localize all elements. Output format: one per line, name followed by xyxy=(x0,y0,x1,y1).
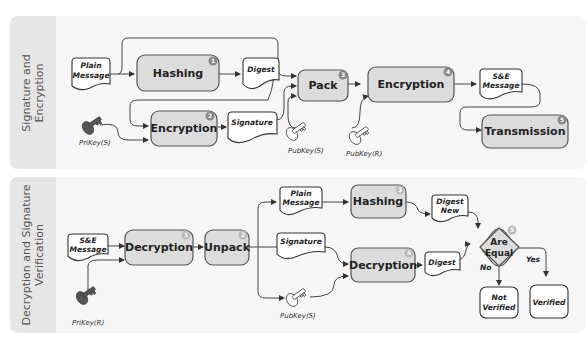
svg-text:Are: Are xyxy=(490,237,508,247)
svg-text:4: 4 xyxy=(407,249,411,256)
svg-text:Signature: Signature xyxy=(231,118,272,127)
svg-text:Decryption: Decryption xyxy=(349,259,417,272)
svg-text:Message: Message xyxy=(283,198,320,207)
svg-text:Encryption: Encryption xyxy=(151,122,218,135)
process-hashing: Hashing 1 xyxy=(137,55,219,91)
key-label: PubKey(S) xyxy=(288,147,324,155)
doc-digest: Digest xyxy=(243,58,279,89)
key-label: PubKey(S) xyxy=(280,312,316,320)
result-not-verified: Not Verified xyxy=(480,287,518,318)
svg-text:Equal: Equal xyxy=(485,248,513,258)
key-label: PriKey(R) xyxy=(72,319,104,327)
svg-text:3: 3 xyxy=(398,186,402,193)
svg-text:Encryption: Encryption xyxy=(378,78,445,91)
svg-text:5: 5 xyxy=(560,116,564,123)
svg-text:2: 2 xyxy=(208,112,212,119)
svg-text:No: No xyxy=(480,263,491,272)
svg-text:Verified: Verified xyxy=(483,303,517,312)
key-label: PriKey(S) xyxy=(79,139,111,147)
flow-diagram: Hashing 1 Encryption 2 Pack 3 Encryption… xyxy=(0,0,587,337)
doc-se-message-received: S&E Message xyxy=(68,234,108,261)
svg-text:2: 2 xyxy=(241,231,245,238)
process-transmission: Transmission 5 xyxy=(482,115,568,148)
svg-text:Message: Message xyxy=(73,71,110,80)
svg-text:Transmission: Transmission xyxy=(484,125,565,138)
process-unpack: Unpack 2 xyxy=(204,230,251,265)
svg-text:Plain: Plain xyxy=(290,189,311,198)
svg-text:Digest: Digest xyxy=(428,258,456,267)
svg-text:3: 3 xyxy=(341,71,345,78)
doc-digest-decrypted: Digest xyxy=(425,252,460,276)
process-decryption-signature: Decryption 4 xyxy=(349,248,417,282)
process-hashing-verify: Hashing 3 xyxy=(351,185,406,218)
doc-digest-new: Digest New xyxy=(432,195,468,222)
process-encryption-pack: Encryption 4 xyxy=(368,67,454,102)
process-encryption-signature: Encryption 2 xyxy=(151,111,218,146)
svg-text:Hashing: Hashing xyxy=(153,67,203,80)
svg-text:Message: Message xyxy=(70,245,107,254)
svg-text:4: 4 xyxy=(446,68,450,75)
process-decryption-message: Decryption 1 xyxy=(125,230,193,265)
key-icon-private-receiver xyxy=(74,283,99,307)
key-icon-public-sender-verify xyxy=(284,285,309,309)
svg-text:Pack: Pack xyxy=(308,79,338,92)
svg-text:Verified: Verified xyxy=(533,298,567,307)
svg-text:S&E: S&E xyxy=(492,72,510,81)
decision-are-equal: Are Equal 5 Yes No xyxy=(480,226,541,273)
svg-text:Digest: Digest xyxy=(436,197,464,206)
key-icon-public-sender xyxy=(284,119,309,143)
svg-text:Digest: Digest xyxy=(247,65,275,74)
svg-text:Yes: Yes xyxy=(526,255,541,264)
process-pack: Pack 3 xyxy=(298,70,348,101)
svg-text:1: 1 xyxy=(211,57,215,64)
svg-text:5: 5 xyxy=(510,226,514,233)
doc-signature-unpacked: Signature xyxy=(277,233,325,259)
svg-text:New: New xyxy=(441,206,459,215)
svg-text:Hashing: Hashing xyxy=(353,195,403,208)
doc-se-message: S&E Message xyxy=(480,69,522,99)
svg-text:Decryption: Decryption xyxy=(125,241,193,254)
svg-text:Plain: Plain xyxy=(80,61,101,70)
svg-text:Signature: Signature xyxy=(280,237,321,246)
doc-signature: Signature xyxy=(228,112,277,143)
key-label: PubKey(R) xyxy=(346,150,382,158)
svg-text:S&E: S&E xyxy=(79,236,97,245)
doc-plain-message: Plain Message xyxy=(72,58,110,90)
svg-text:Message: Message xyxy=(483,81,520,90)
svg-text:Unpack: Unpack xyxy=(204,241,251,254)
svg-text:1: 1 xyxy=(184,231,188,238)
svg-text:Not: Not xyxy=(491,293,506,302)
result-verified: Verified xyxy=(530,285,568,318)
doc-plain-message-unpacked: Plain Message xyxy=(280,187,322,215)
key-icon-public-receiver xyxy=(347,123,372,147)
